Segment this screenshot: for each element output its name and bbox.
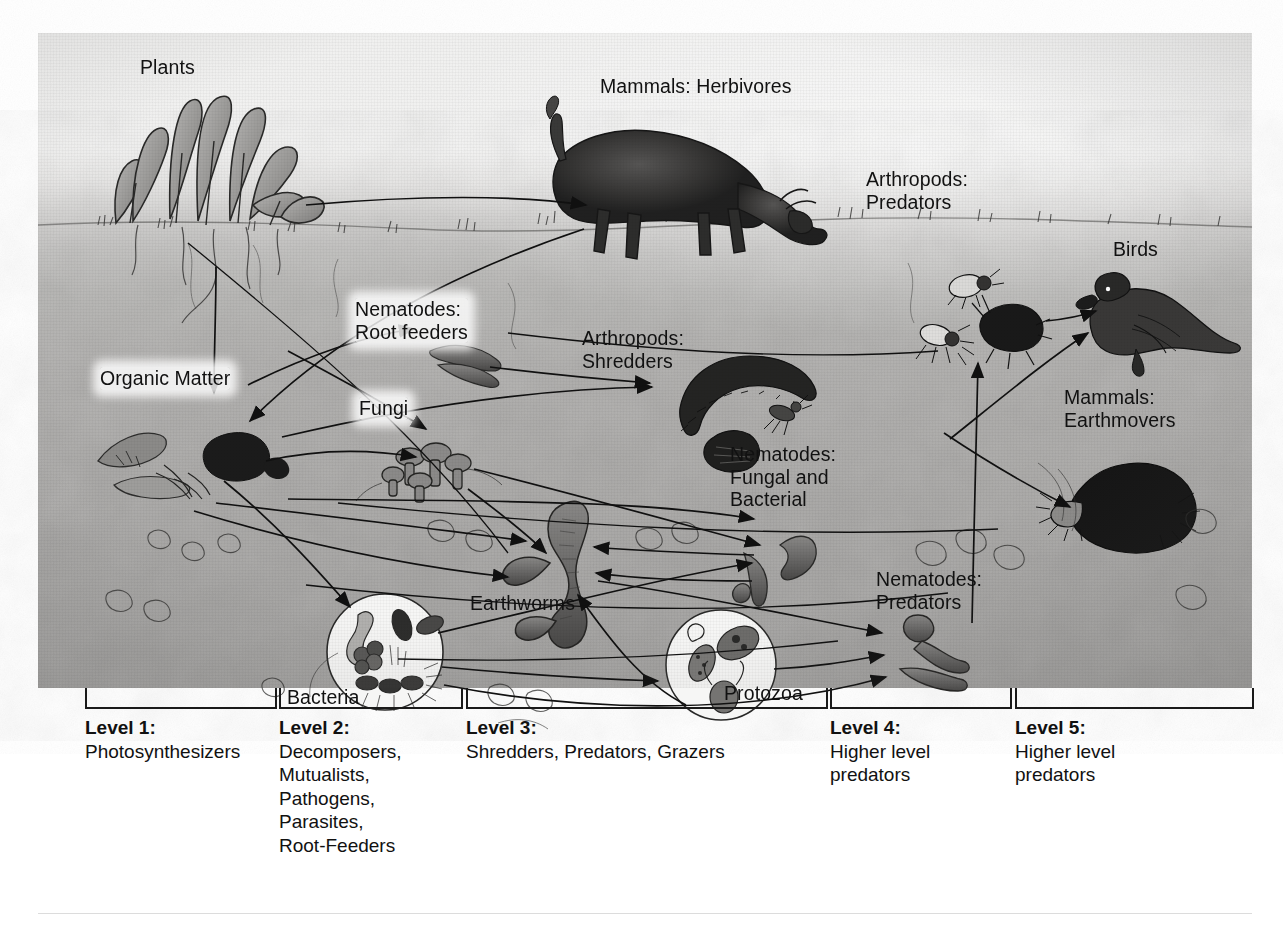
label-nematodes-predators: Nematodes: Predators	[876, 568, 982, 613]
label-nematodes-root-feeders: Nematodes: Root feeders	[355, 298, 468, 343]
level-3-number: Level 3:	[466, 716, 725, 740]
level-4: Level 4: Higher level predators	[830, 716, 930, 787]
level-5-desc: Higher level predators	[1015, 740, 1115, 787]
illustration-panel: Plants Mammals: Herbivores Arthropods: P…	[38, 33, 1252, 688]
label-earthworms: Earthworms	[470, 592, 575, 615]
trophic-level-legend: Level 1: Photosynthesizers Level 2: Deco…	[0, 688, 1283, 908]
label-arthropods-shredders: Arthropods: Shredders	[582, 327, 684, 372]
label-arthropods-predators: Arthropods: Predators	[866, 168, 968, 213]
soil-food-web-figure: Plants Mammals: Herbivores Arthropods: P…	[0, 0, 1283, 937]
label-plants: Plants	[140, 56, 195, 79]
level-2-desc: Decomposers, Mutualists, Pathogens, Para…	[279, 740, 402, 858]
level-4-number: Level 4:	[830, 716, 930, 740]
label-fungi: Fungi	[359, 397, 408, 420]
bottom-divider	[38, 913, 1252, 914]
label-organic-matter: Organic Matter	[100, 367, 230, 390]
level-1: Level 1: Photosynthesizers	[85, 716, 240, 763]
level-5-number: Level 5:	[1015, 716, 1115, 740]
level-1-number: Level 1:	[85, 716, 240, 740]
level-1-desc: Photosynthesizers	[85, 740, 240, 764]
level-4-desc: Higher level predators	[830, 740, 930, 787]
level-bracket-1	[85, 688, 277, 709]
level-bracket-5	[1015, 688, 1254, 709]
level-2-number: Level 2:	[279, 716, 402, 740]
level-3-desc: Shredders, Predators, Grazers	[466, 740, 725, 764]
label-birds: Birds	[1113, 238, 1158, 261]
level-bracket-2	[279, 688, 463, 709]
label-mammals-earthmovers: Mammals: Earthmovers	[1064, 386, 1176, 431]
label-mammals-herbivores: Mammals: Herbivores	[600, 75, 792, 98]
level-bracket-4	[830, 688, 1012, 709]
level-bracket-3	[466, 688, 828, 709]
label-nematodes-fungal-bacterial: Nematodes: Fungal and Bacterial	[730, 443, 836, 511]
level-3: Level 3: Shredders, Predators, Grazers	[466, 716, 725, 763]
level-2: Level 2: Decomposers, Mutualists, Pathog…	[279, 716, 402, 857]
level-5: Level 5: Higher level predators	[1015, 716, 1115, 787]
